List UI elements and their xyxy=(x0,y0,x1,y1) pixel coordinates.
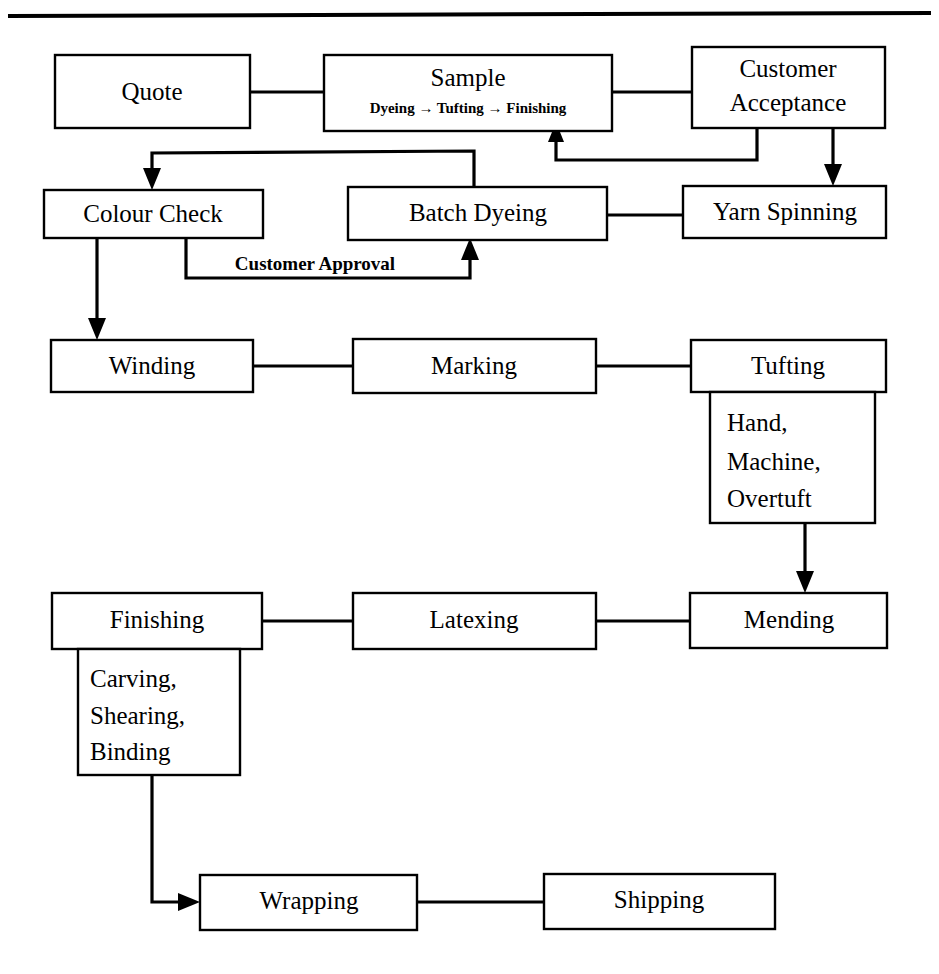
node-finishing-label: Finishing xyxy=(110,606,205,633)
node-tufting-detail-line-2: Machine, xyxy=(727,448,821,475)
node-customer-acceptance-label-line2: Acceptance xyxy=(730,89,847,116)
node-customer-acceptance[interactable]: Customer Acceptance xyxy=(692,47,885,128)
node-customer-acceptance-label-line1: Customer xyxy=(739,55,837,82)
node-tufting-label: Tufting xyxy=(751,352,826,379)
node-finishing-detail-line-3: Binding xyxy=(90,738,171,765)
arrowhead-into-wrapping xyxy=(178,893,200,911)
node-wrapping-label: Wrapping xyxy=(260,887,359,914)
node-colour-check[interactable]: Colour Check xyxy=(44,190,263,238)
connector-customer-acceptance-to-sample xyxy=(556,128,757,160)
arrowhead-into-colour-check xyxy=(143,168,161,190)
node-batch-dyeing[interactable]: Batch Dyeing xyxy=(348,187,607,240)
node-latexing[interactable]: Latexing xyxy=(353,593,596,649)
node-mending-label: Mending xyxy=(744,606,835,633)
node-finishing-detail-line-2: Shearing, xyxy=(90,702,185,729)
node-colour-check-label: Colour Check xyxy=(83,200,223,227)
top-divider-rule xyxy=(8,13,931,16)
node-tufting-detail-line-1: Hand, xyxy=(727,409,787,436)
edge-label-customer-approval: Customer Approval xyxy=(235,253,395,274)
arrowhead-into-winding xyxy=(88,318,106,340)
node-finishing-detail-line-1: Carving, xyxy=(90,665,177,692)
arrowhead-into-yarn-spinning xyxy=(824,164,842,186)
connector-batch-dyeing-to-colour-check xyxy=(152,151,474,187)
node-yarn-spinning-label: Yarn Spinning xyxy=(713,198,858,225)
node-mending[interactable]: Mending xyxy=(690,593,887,648)
node-sample[interactable]: Sample Dyeing → Tufting → Finishing xyxy=(324,55,612,131)
node-sample-label: Sample xyxy=(431,64,506,91)
node-shipping[interactable]: Shipping xyxy=(544,874,775,929)
process-flowchart: Customer Approval Quote Sample Dyeing → … xyxy=(0,0,939,974)
node-quote-label: Quote xyxy=(121,78,182,105)
connector-finishing-to-wrapping xyxy=(152,775,185,902)
node-marking[interactable]: Marking xyxy=(353,339,596,393)
node-sample-sublabel: Dyeing → Tufting → Finishing xyxy=(370,100,567,116)
flowchart-canvas: Customer Approval Quote Sample Dyeing → … xyxy=(0,0,939,974)
node-shipping-label: Shipping xyxy=(614,886,705,913)
node-winding[interactable]: Winding xyxy=(51,340,253,392)
arrowhead-into-batch-dyeing xyxy=(461,238,479,260)
node-tufting[interactable]: Tufting Hand, Machine, Overtuft xyxy=(691,340,886,523)
node-tufting-detail-line-3: Overtuft xyxy=(727,485,812,512)
node-marking-label: Marking xyxy=(431,352,518,379)
node-winding-label: Winding xyxy=(109,352,196,379)
arrowhead-into-mending xyxy=(796,571,814,593)
node-yarn-spinning[interactable]: Yarn Spinning xyxy=(683,186,886,238)
node-quote[interactable]: Quote xyxy=(55,55,250,128)
node-finishing[interactable]: Finishing Carving, Shearing, Binding xyxy=(52,593,262,775)
node-latexing-label: Latexing xyxy=(430,606,519,633)
node-batch-dyeing-label: Batch Dyeing xyxy=(409,199,548,226)
node-wrapping[interactable]: Wrapping xyxy=(200,875,417,930)
